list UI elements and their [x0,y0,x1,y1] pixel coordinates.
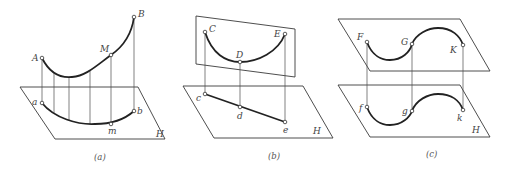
point-F [365,40,369,44]
projection-curve-amb [42,103,134,124]
projection-curve-fgk [367,94,463,125]
space-curve-cde [205,32,285,62]
projection-diagram: A M B a m b H (a) C D E c d e H (b) [0,0,506,177]
panel-b: C D E c d e H (b) [183,16,333,161]
label-a: a [32,97,37,107]
point-e [283,120,287,124]
label-K: K [449,45,458,55]
label-plane-h-a: H [155,129,164,139]
label-c: c [196,93,201,103]
label-M: M [99,44,110,54]
space-curve-fgk [367,28,463,60]
point-b [132,109,136,113]
caption-b: (b) [268,151,280,161]
panel-a: A M B a m b H (a) [20,9,165,162]
label-F: F [356,32,364,42]
projection-lines-a [42,17,134,124]
label-D: D [235,50,243,60]
point-g [410,109,414,113]
caption-a: (a) [94,152,106,162]
label-e: e [283,125,288,135]
projection-line-cde [205,94,285,122]
point-a [40,101,44,105]
point-G [410,42,414,46]
point-D [238,60,242,64]
caption-c: (c) [426,149,437,159]
label-B: B [137,9,145,19]
space-curve-ab [42,17,134,77]
point-A [40,56,44,60]
point-E [283,32,287,36]
point-K [461,43,465,47]
label-plane-h-b: H [312,126,321,136]
projection-lines-c [367,42,463,111]
plane-parallel-c [338,19,490,71]
label-C: C [209,24,216,34]
point-B [132,15,136,19]
label-plane-h-c: H [471,125,480,135]
point-C [203,30,207,34]
label-A: A [31,53,39,63]
point-d [238,105,242,109]
label-G: G [401,37,408,47]
label-d: d [237,111,243,121]
point-M [109,53,113,57]
panel-c: F G K f g k H (c) [338,19,490,159]
label-m: m [108,126,117,136]
label-k: k [457,113,462,123]
label-g: g [402,106,408,116]
label-b: b [137,106,143,116]
label-E: E [273,29,281,39]
label-f: f [358,103,364,113]
point-f [365,105,369,109]
point-k [461,108,465,112]
point-c [203,92,207,96]
